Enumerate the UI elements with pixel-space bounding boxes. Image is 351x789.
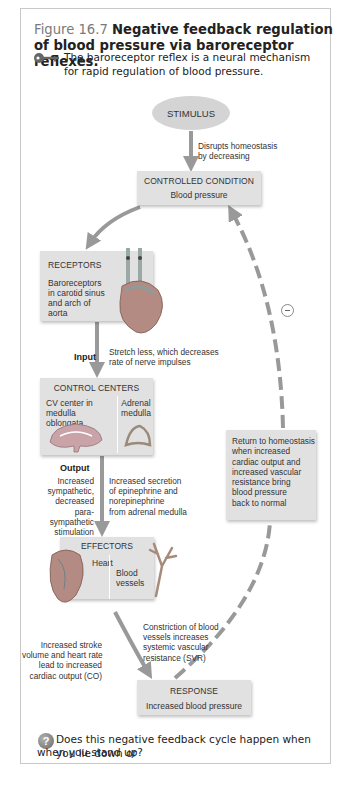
stimulus-note: Disrupts homeostasis by decreasing [198, 141, 277, 161]
stimulus-node: STIMULUS [152, 96, 230, 130]
note-line: of epinephrine and [109, 486, 187, 496]
note-line: resistance (SVR) [143, 653, 219, 663]
controlled-condition-box: CONTROLLED CONDITION Blood pressure [137, 171, 261, 205]
note-line: cardiac output (CO) [22, 671, 102, 681]
sub-line: and arch of aorta [48, 298, 108, 318]
note-line: resistance bring [232, 477, 316, 487]
box-heading: RESPONSE [137, 686, 251, 696]
effector-left-note: Increased stroke volume and heart rate l… [42, 640, 102, 681]
divider [117, 396, 118, 453]
note-line: vessels increases [143, 632, 219, 642]
box-sub: Increased blood pressure [137, 701, 251, 711]
label-line: medulla [120, 408, 152, 418]
box-sub: Blood pressure [137, 190, 261, 200]
blood-vessel-illustration [146, 536, 180, 598]
heart-carotid-illustration [112, 246, 170, 336]
feedback-dashed-arrow-upper [232, 212, 283, 428]
note-line: Return to homeostasis [232, 436, 316, 446]
arrow-condition-to-receptors [90, 207, 140, 243]
note-line: rate of nerve impulses [109, 357, 219, 367]
note-line: cardiac output and [232, 457, 316, 467]
note-line: back to normal [232, 498, 316, 508]
note-line: Disrupts homeostasis [198, 141, 277, 151]
input-note: Stretch less, which decreases rate of ne… [109, 347, 219, 367]
note-line: Stretch less, which decreases [109, 347, 219, 357]
control-centers-box: CONTROL CENTERS CV center in medulla obl… [40, 378, 153, 455]
note-line: blood pressure [232, 487, 316, 497]
note-line: increased vascular [232, 467, 316, 477]
output-label: Output [60, 463, 90, 473]
effector-right-note: Constriction of blood vessels increases … [143, 622, 219, 663]
note-line: Constriction of blood [143, 622, 219, 632]
note-line: sympathetic [36, 517, 94, 527]
input-label: Input [74, 352, 96, 362]
box-sub: Baroreceptors in carotid sinus and arch … [40, 270, 108, 318]
return-to-homeostasis-box: Return to homeostasis when increased car… [226, 430, 316, 520]
brain-illustration [46, 420, 106, 454]
label-line: vessels [116, 578, 144, 588]
label-line: CV center in [46, 398, 106, 408]
minus-icon [281, 304, 294, 317]
note-line: stimulation [36, 527, 94, 537]
note-line: Increased [36, 476, 94, 486]
sub-line: Baroreceptors [48, 278, 108, 288]
output-text: Output [60, 463, 90, 473]
output-right-note: Increased secretion of epinephrine and n… [109, 476, 187, 517]
blood-vessels-label: Blood vessels [116, 568, 144, 588]
question-text-line2: when you stand up? [37, 746, 143, 758]
box-heading: CONTROL CENTERS [40, 383, 153, 393]
divider [109, 555, 110, 599]
label-line: Adrenal [120, 398, 152, 408]
box-heading: CONTROLLED CONDITION [137, 176, 261, 186]
note-line: volume and heart rate [22, 650, 102, 660]
adrenal-medulla-label: Adrenal medulla [120, 398, 152, 418]
note-line: decreased para- [36, 496, 94, 516]
note-line: when increased [232, 446, 316, 456]
adrenal-illustration [124, 423, 152, 449]
note-line: sympathetic, [36, 486, 94, 496]
sub-line: in carotid sinus [48, 288, 108, 298]
note-line: by decreasing [198, 151, 277, 161]
input-text: Input [74, 352, 96, 362]
response-box: RESPONSE Increased blood pressure [137, 680, 251, 715]
label-line: Blood [116, 568, 144, 578]
output-left-note: Increased sympathetic, decreased para- s… [36, 476, 94, 537]
note-line: Increased secretion [109, 476, 187, 486]
note-line: systemic vascular [143, 642, 219, 652]
heart-illustration [46, 545, 88, 607]
note-line: lead to increased [22, 660, 102, 670]
note-line: from adrenal medulla [109, 507, 187, 517]
note-line: Increased stroke [22, 640, 102, 650]
note-line: norepinephrine [109, 496, 187, 506]
